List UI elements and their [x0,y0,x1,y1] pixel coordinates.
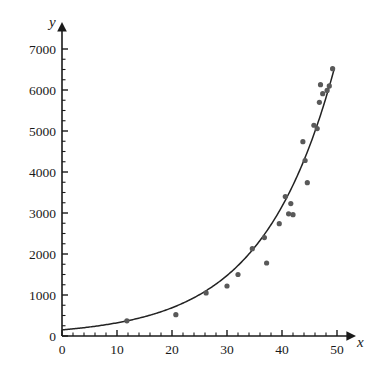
data-point [325,88,330,93]
data-point [277,221,282,226]
y-tick-label: 1000 [29,288,56,303]
data-point [173,312,178,317]
data-point [317,100,322,105]
data-point [320,91,325,96]
data-point [288,201,293,206]
data-point [124,318,129,323]
data-point [290,212,295,217]
data-point [235,272,240,277]
y-tick-label: 2000 [29,247,56,262]
y-tick-label: 5000 [29,124,56,139]
exponential-fit-curve [62,69,334,330]
x-tick-label: 40 [275,342,289,357]
y-axis-tick-labels: 01000200030004000500060007000 [29,42,56,344]
x-tick-label: 0 [59,342,66,357]
data-point [305,180,310,185]
x-tick-label: 30 [220,342,234,357]
data-point [264,260,269,265]
data-point [330,66,335,71]
y-axis-ticks [62,49,68,336]
exponential-scatter-chart: 01020304050 0100020003000400050006000700… [0,0,380,377]
data-point [318,82,323,87]
data-point [303,158,308,163]
x-tick-label: 10 [110,342,124,357]
data-point [224,283,229,288]
data-point [262,235,267,240]
x-axis-title: x [356,334,364,350]
data-point [327,83,332,88]
data-point [204,290,209,295]
y-tick-label: 6000 [29,83,56,98]
y-tick-label: 3000 [29,206,56,221]
data-point [286,211,291,216]
y-axis-title: y [47,14,56,30]
y-tick-label: 4000 [29,165,56,180]
x-tick-label: 20 [165,342,179,357]
data-point [283,194,288,199]
y-tick-label: 7000 [29,42,56,57]
data-point [300,139,305,144]
y-tick-label: 0 [49,329,56,344]
x-axis-tick-labels: 01020304050 [59,342,344,357]
data-point [315,126,320,131]
data-point [250,246,255,251]
x-axis-ticks [62,330,337,336]
x-tick-label: 50 [330,342,344,357]
plot-area: 01020304050 0100020003000400050006000700… [0,0,380,377]
data-points [124,66,335,323]
